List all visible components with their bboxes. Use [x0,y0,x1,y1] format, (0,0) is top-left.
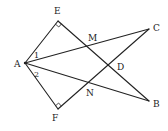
right-angle-mark-F [56,103,62,106]
geometry-diagram: A E F C B M D N 1 2 [0,0,168,131]
segment-AE [25,21,58,63]
label-M: M [88,33,97,43]
angle-label-1: 1 [34,51,39,60]
label-F: F [52,113,58,123]
segment-AF [25,63,58,109]
label-C: C [153,23,160,33]
point-A-dot [24,62,26,64]
label-A: A [13,59,21,69]
right-angle-mark-E [56,24,62,27]
label-E: E [54,6,61,16]
angle-label-2: 2 [34,70,39,79]
label-D: D [117,62,124,72]
label-B: B [153,99,160,109]
label-N: N [86,88,94,98]
